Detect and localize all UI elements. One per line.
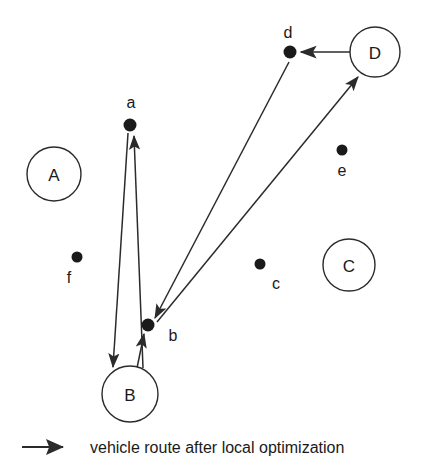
route-arrow-d-to-b bbox=[155, 62, 289, 318]
customer-node-e[interactable]: e bbox=[337, 145, 348, 180]
customer-node-d[interactable]: d bbox=[284, 24, 297, 59]
customer-dot-a bbox=[124, 119, 137, 132]
customer-dot-b bbox=[142, 319, 155, 332]
diagram-canvas: A B C D a b bbox=[0, 0, 423, 472]
customer-label-a: a bbox=[127, 94, 136, 111]
legend-label: vehicle route after local optimization bbox=[90, 439, 344, 456]
depot-node-B[interactable]: B bbox=[102, 366, 158, 422]
customer-label-b: b bbox=[169, 327, 178, 344]
depot-node-A[interactable]: A bbox=[27, 147, 81, 201]
route-arrow-a-to-B bbox=[113, 133, 128, 367]
customer-dot-f bbox=[72, 252, 83, 263]
depots-group: A B C D bbox=[27, 27, 400, 422]
customer-node-c[interactable]: c bbox=[255, 259, 281, 293]
customer-node-b[interactable]: b bbox=[142, 319, 178, 345]
depot-node-D[interactable]: D bbox=[350, 27, 400, 77]
customers-group: a b c d e f bbox=[67, 24, 348, 344]
depot-label-D: D bbox=[369, 44, 381, 63]
customer-dot-c bbox=[255, 259, 266, 270]
customer-label-f: f bbox=[67, 269, 72, 286]
route-arrow-B-to-a bbox=[134, 136, 143, 368]
depot-label-B: B bbox=[124, 386, 135, 405]
customer-node-a[interactable]: a bbox=[124, 94, 137, 132]
route-arrow-b-to-D bbox=[157, 77, 358, 322]
customer-dot-d bbox=[284, 46, 297, 59]
depot-label-A: A bbox=[48, 166, 60, 185]
depot-node-C[interactable]: C bbox=[323, 239, 375, 291]
depot-label-C: C bbox=[343, 257, 355, 276]
customer-label-c: c bbox=[272, 275, 280, 292]
customer-label-d: d bbox=[284, 24, 293, 41]
routing-diagram: A B C D a b bbox=[0, 0, 423, 472]
customer-node-f[interactable]: f bbox=[67, 252, 83, 287]
customer-label-e: e bbox=[338, 162, 347, 179]
legend: vehicle route after local optimization bbox=[22, 439, 344, 456]
customer-dot-e bbox=[337, 145, 348, 156]
